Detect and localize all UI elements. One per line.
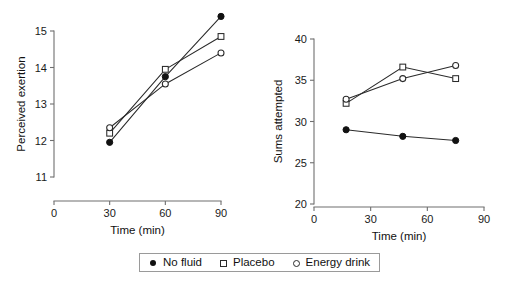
y-axis-title: Sums attempted [272, 80, 284, 164]
data-point-circle-filled-marker-icon [107, 139, 113, 145]
data-point-circle-open-marker-icon [343, 96, 349, 102]
series-line-energy-drink [110, 53, 221, 128]
circle-filled-marker-icon [149, 258, 158, 267]
y-tick-label: 40 [295, 33, 307, 45]
y-tick-label: 25 [295, 157, 307, 169]
x-tick-label: 60 [421, 213, 433, 225]
x-tick-label: 60 [159, 207, 171, 219]
x-tick-label: 30 [365, 213, 377, 225]
data-point-square-open-marker-icon [453, 76, 459, 82]
y-tick-label: 15 [35, 25, 47, 37]
figure: 11121314150306090Time (min)Perceived exe… [0, 0, 519, 283]
data-point-circle-filled-marker-icon [453, 137, 459, 143]
data-point-circle-filled-marker-icon [400, 133, 406, 139]
data-point-square-open-marker-icon [218, 34, 224, 40]
perceived-exertion-plot: 11121314150306090Time (min)Perceived exe… [0, 0, 259, 248]
x-tick-label: 0 [311, 213, 317, 225]
data-point-circle-open-marker-icon [218, 50, 224, 56]
data-point-circle-filled-marker-icon [218, 13, 224, 19]
x-axis-title: Time (min) [372, 230, 427, 242]
chart-legend: No fluid Placebo Energy drink [139, 253, 380, 272]
legend-label-no-fluid: No fluid [163, 257, 202, 269]
data-point-circle-open-marker-icon [107, 125, 113, 131]
series-line-placebo [346, 67, 456, 103]
y-tick-label: 20 [295, 198, 307, 210]
chart-panel-sums-attempted: 20253035400306090Time (min)Sums attempte… [256, 0, 515, 248]
x-tick-label: 90 [478, 213, 490, 225]
y-tick-label: 14 [35, 62, 47, 74]
sums-attempted-plot: 20253035400306090Time (min)Sums attempte… [256, 0, 515, 248]
data-point-circle-filled-marker-icon [162, 74, 168, 80]
legend-item-no-fluid: No fluid [149, 257, 202, 269]
data-point-square-open-marker-icon [400, 64, 406, 70]
y-axis-title: Perceived exertion [15, 56, 27, 151]
square-open-marker-icon [219, 258, 228, 267]
legend-label-placebo: Placebo [233, 257, 275, 269]
data-point-circle-open-marker-icon [453, 62, 459, 68]
data-point-circle-open-marker-icon [400, 76, 406, 82]
chart-panel-perceived-exertion: 11121314150306090Time (min)Perceived exe… [0, 0, 259, 248]
x-tick-label: 0 [51, 207, 57, 219]
chart-panels: 11121314150306090Time (min)Perceived exe… [0, 0, 519, 248]
x-axis-title: Time (min) [110, 224, 165, 236]
y-tick-label: 11 [36, 171, 47, 183]
legend-item-placebo: Placebo [219, 257, 275, 269]
legend-item-energy-drink: Energy drink [292, 257, 371, 269]
data-point-square-open-marker-icon [162, 66, 168, 72]
y-tick-label: 12 [35, 135, 47, 147]
x-tick-label: 90 [215, 207, 227, 219]
legend-label-energy-drink: Energy drink [306, 257, 371, 269]
x-tick-label: 30 [104, 207, 116, 219]
y-tick-label: 30 [295, 116, 307, 128]
circle-open-marker-icon [292, 258, 301, 267]
y-tick-label: 13 [35, 98, 47, 110]
y-tick-label: 35 [295, 74, 307, 86]
data-point-circle-filled-marker-icon [343, 127, 349, 133]
data-point-circle-open-marker-icon [162, 81, 168, 87]
